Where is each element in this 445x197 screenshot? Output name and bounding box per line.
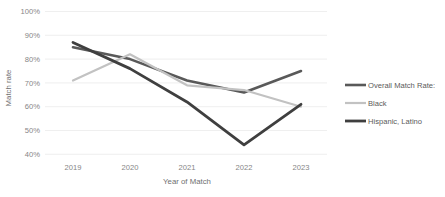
x-tick-label: 2022 <box>236 163 253 172</box>
series-lines <box>73 42 301 144</box>
y-tick-label: 80% <box>25 55 40 64</box>
y-tick-label: 50% <box>25 126 40 135</box>
y-axis-title: Match rate <box>4 70 13 107</box>
line-chart: 100% 90% 80% 70% 60% 50% 40% 2019 2020 2… <box>0 0 445 197</box>
legend-label: Hispanic, Latino <box>368 117 422 126</box>
x-tick-label: 2020 <box>122 163 139 172</box>
legend-label: Overall Match Rate: <box>368 81 435 90</box>
chart-canvas: 100% 90% 80% 70% 60% 50% 40% 2019 2020 2… <box>0 0 445 197</box>
x-axis-title: Year of Match <box>163 177 211 186</box>
gridlines <box>45 12 327 155</box>
y-tick-label: 60% <box>25 102 40 111</box>
x-tick-label: 2023 <box>293 163 310 172</box>
legend: Overall Match Rate: Black Hispanic, Lati… <box>345 81 435 126</box>
series-line-hispanic-latino <box>73 42 301 144</box>
y-tick-label: 90% <box>25 31 40 40</box>
y-tick-label: 100% <box>21 7 41 16</box>
y-tick-label: 70% <box>25 79 40 88</box>
x-axis-tick-labels: 2019 2020 2021 2022 2023 <box>65 163 310 172</box>
x-tick-label: 2019 <box>65 163 82 172</box>
y-tick-label: 40% <box>25 150 40 159</box>
y-axis-tick-labels: 100% 90% 80% 70% 60% 50% 40% <box>21 7 41 159</box>
legend-label: Black <box>368 99 387 108</box>
x-tick-label: 2021 <box>179 163 196 172</box>
